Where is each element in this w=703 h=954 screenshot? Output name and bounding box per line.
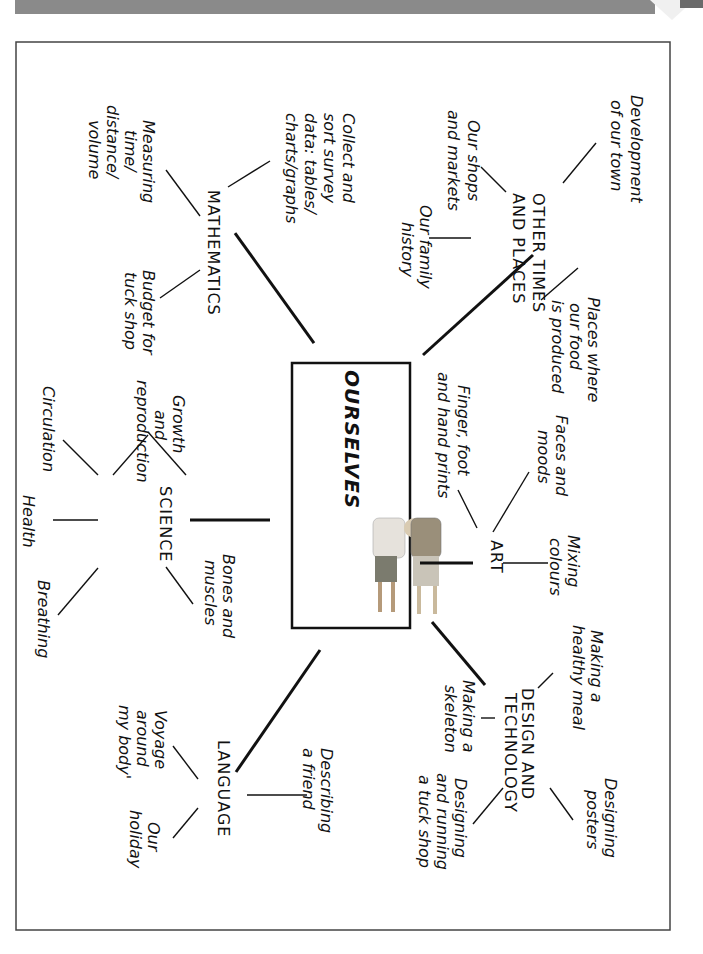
item-label: and running (433, 773, 452, 870)
item-label: Designing (451, 778, 470, 858)
item-label: reproduction (133, 380, 152, 483)
item-label: Making a (587, 630, 606, 703)
item-label: posters (583, 789, 602, 849)
item-label: Designing (601, 778, 620, 858)
item-label: holiday (126, 810, 145, 869)
item-label: Our (144, 822, 163, 853)
item-label: Health (19, 495, 38, 548)
topic-science-items: Growth and reproduction Circulation Heal… (19, 380, 238, 658)
item-label: my body' (115, 705, 134, 779)
item-label: Bones and (219, 554, 238, 639)
item-label: Growth (169, 395, 188, 453)
item-label: skeleton (441, 685, 460, 753)
topic-heading: LANGUAGE (214, 740, 233, 837)
branch-line (432, 622, 485, 685)
item-label: Making a (459, 680, 478, 753)
item-label: a friend (299, 748, 318, 811)
item-label: Circulation (39, 386, 58, 472)
item-label: and (151, 410, 170, 441)
item-label: Describing (317, 748, 336, 833)
topic-heading: TECHNOLOGY (501, 692, 520, 813)
topic-web-diagram-overlay: Growth and reproduction Circulation Heal… (0, 0, 703, 954)
item-label: Breathing (34, 580, 53, 658)
item-label: a tuck shop (415, 775, 434, 868)
item-label: around (133, 710, 152, 767)
topic-language: LANGUAGE Describing a friend Voyage arou… (115, 650, 336, 869)
item-label: Voyage (151, 710, 170, 769)
item-label: healthy meal (569, 625, 588, 730)
topic-design-and-technology: DESIGN AND TECHNOLOGY Making a healthy m… (415, 622, 620, 870)
item-label: muscles (201, 560, 220, 625)
